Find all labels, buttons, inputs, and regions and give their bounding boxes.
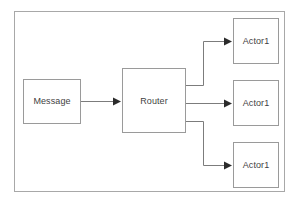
diagram-svg: Message Router Actor1 Actor1 Actor1 [0, 0, 299, 206]
node-message[interactable]: Message [24, 80, 81, 124]
node-actor-middle-label: Actor1 [243, 98, 270, 108]
node-router-label: Router [140, 96, 168, 106]
node-message-label: Message [33, 96, 70, 106]
node-actor-bottom[interactable]: Actor1 [234, 143, 279, 188]
node-actor-top[interactable]: Actor1 [234, 19, 279, 64]
diagram-canvas: Message Router Actor1 Actor1 Actor1 [0, 0, 299, 206]
node-router[interactable]: Router [123, 69, 186, 133]
node-actor-top-label: Actor1 [243, 36, 270, 46]
node-actor-middle[interactable]: Actor1 [234, 81, 279, 126]
node-actor-bottom-label: Actor1 [243, 160, 270, 170]
